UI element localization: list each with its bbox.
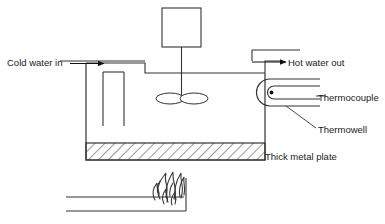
label-cold-water-in: Cold water in: [7, 58, 62, 68]
thick-metal-plate: [86, 143, 265, 160]
diagram-canvas: Cold water in Hot water out Thermocouple…: [0, 0, 385, 224]
process-diagram: [0, 0, 385, 224]
label-thermocouple: Thermocouple: [318, 93, 379, 103]
motor-box: [162, 8, 201, 47]
thermowell-body: [257, 79, 321, 106]
thermowell-leader-line: [286, 106, 316, 128]
inlet-dip-tube: [60, 61, 145, 126]
thermocouple-probe: [268, 86, 321, 99]
label-hot-water-out: Hot water out: [288, 58, 345, 68]
flame-icon: [153, 172, 185, 205]
label-thick-metal-plate: Thick metal plate: [265, 152, 337, 162]
thermocouple-tip: [270, 91, 274, 95]
label-thermowell: Thermowell: [318, 125, 367, 135]
